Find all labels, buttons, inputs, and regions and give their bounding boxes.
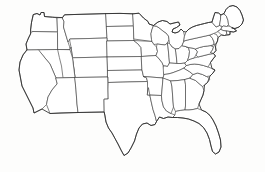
state-ND[interactable]	[106, 13, 133, 26]
state-MT[interactable]	[63, 14, 108, 42]
state-NE[interactable]	[107, 41, 142, 58]
us-states-map	[0, 0, 265, 172]
state-NM[interactable]	[75, 77, 108, 113]
state-SD[interactable]	[107, 26, 134, 41]
us-map-container: United States	[0, 0, 265, 172]
state-KS[interactable]	[107, 57, 142, 71]
state-WY[interactable]	[70, 38, 107, 58]
state-AL[interactable]	[171, 80, 186, 112]
state-CO[interactable]	[73, 57, 108, 78]
state-OK[interactable]	[108, 70, 148, 83]
